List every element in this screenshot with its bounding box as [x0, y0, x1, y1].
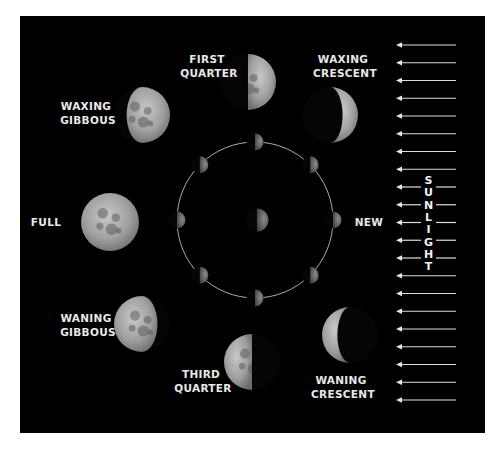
moon-waning-gibbous: [114, 296, 170, 352]
sunlight-arrow: [396, 78, 456, 84]
sunlight-letter: U: [424, 186, 433, 199]
orbit-moon-6: [191, 267, 208, 284]
moon-waxing-gibbous-lit: [127, 87, 170, 143]
sunlight-letter: N: [424, 199, 433, 212]
sunlight-arrow: [396, 379, 456, 385]
label-third-quarter: THIRD QUARTER: [174, 368, 231, 394]
label-waning-gibbous: WANING GIBBOUS: [60, 312, 116, 338]
orbit-moon-5: [169, 212, 186, 229]
sunlight-arrow: [396, 149, 456, 155]
sunlight-arrow: [396, 273, 456, 279]
arrow-head-icon: [396, 291, 402, 297]
center-moon: [246, 209, 269, 232]
arrow-head-icon: [396, 397, 402, 403]
sunlight-letter: L: [425, 211, 432, 224]
sunlight-arrow: [396, 166, 456, 172]
label-waning-crescent: WANING CRESCENT: [311, 374, 375, 400]
arrow-head-icon: [396, 184, 402, 190]
sunlight-arrow: [396, 42, 456, 48]
sunlight-label: SUNLIGHT: [424, 174, 433, 273]
label-new: NEW: [355, 216, 384, 228]
orbit-moon-2: [302, 156, 319, 173]
sunlight-arrow: [396, 291, 456, 297]
arrow-head-icon: [396, 220, 402, 226]
sunlight-arrow: [396, 326, 456, 332]
arrow-head-icon: [396, 326, 402, 332]
sunlight-arrow: [396, 95, 456, 101]
sunlight-arrow: [396, 308, 456, 314]
moon-first-quarter-lit: [248, 54, 276, 110]
arrow-head-icon: [396, 78, 402, 84]
arrow-head-icon: [396, 131, 402, 137]
orbit-moon-7: [247, 290, 264, 307]
label-full: FULL: [31, 216, 61, 228]
sunlight-letter: I: [426, 223, 430, 236]
label-waxing-gibbous: WAXING GIBBOUS: [60, 100, 116, 126]
arrow-head-icon: [396, 237, 402, 243]
orbit-moon-2-lit: [310, 156, 319, 173]
arrow-head-icon: [396, 362, 402, 368]
sunlight-arrow: [396, 131, 456, 137]
sunlight-arrow: [396, 113, 456, 119]
center-body-earth: [246, 209, 269, 232]
orbit-moon-5-lit: [177, 212, 186, 229]
arrow-head-icon: [396, 344, 402, 350]
arrow-head-icon: [396, 273, 402, 279]
sunlight-letter: G: [424, 236, 433, 249]
orbit-moon-8-lit: [310, 267, 319, 284]
moon-third-quarter: [224, 334, 280, 390]
label-waxing-crescent: WAXING CRESCENT: [313, 53, 377, 79]
arrow-head-icon: [396, 255, 402, 261]
arrow-head-icon: [396, 60, 402, 66]
sunlight-letter: H: [424, 248, 433, 261]
moon-waning-crescent: [322, 307, 378, 363]
arrow-head-icon: [396, 379, 402, 385]
moon-waxing-gibbous: [114, 87, 170, 143]
sunlight-arrow: [396, 397, 456, 403]
arrow-head-icon: [396, 149, 402, 155]
arrow-head-icon: [396, 95, 402, 101]
orbit-moon-1: [325, 212, 342, 229]
arrow-head-icon: [396, 113, 402, 119]
orbit-moon-1-lit: [333, 212, 342, 229]
arrow-head-icon: [396, 166, 402, 172]
moon-full: [81, 193, 139, 251]
arrow-head-icon: [396, 202, 402, 208]
moon-full-lit: [81, 193, 139, 251]
orbit-moon-3-lit: [255, 134, 264, 151]
orbit-moon-7-lit: [255, 290, 264, 307]
sunlight-arrow: [396, 344, 456, 350]
sunlight-arrow: [396, 362, 456, 368]
moon-phases-diagram: FIRST QUARTER WAXING CRESCENT WAXING GIB…: [0, 0, 504, 449]
orbit-moon-4: [191, 156, 208, 173]
center-body-earth-lit: [257, 209, 269, 232]
orbit-moon-3: [247, 134, 264, 151]
moon-waning-gibbous-lit: [114, 296, 157, 352]
sunlight-letter: S: [425, 174, 433, 187]
sunlight-letter: T: [425, 260, 433, 273]
orbit-moon-8: [302, 267, 319, 284]
moon-waxing-crescent: [302, 87, 358, 143]
sunlight-arrow: [396, 60, 456, 66]
arrow-head-icon: [396, 42, 402, 48]
arrow-head-icon: [396, 308, 402, 314]
